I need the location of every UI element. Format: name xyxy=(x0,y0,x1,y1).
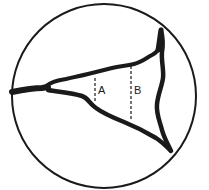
label-a: A xyxy=(98,84,106,96)
diagram-canvas: A B xyxy=(0,0,209,190)
upper-boundary xyxy=(46,48,160,86)
top-right-junction xyxy=(158,30,161,50)
lower-boundary xyxy=(48,90,170,150)
label-b: B xyxy=(134,84,141,96)
outer-circle xyxy=(12,4,196,188)
left-boundary xyxy=(12,87,48,92)
diagram-figure: A B xyxy=(0,0,209,190)
